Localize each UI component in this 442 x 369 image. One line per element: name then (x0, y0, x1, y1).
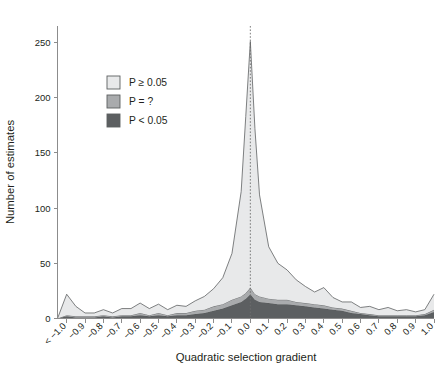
legend-swatch-dark (107, 114, 120, 127)
x-tick-label: 0.3 (291, 321, 307, 337)
x-tick-label: 0.5 (327, 321, 343, 337)
x-tick-label: < −1.0 (42, 321, 68, 347)
y-tick-label: 200 (35, 92, 51, 103)
x-tick-label: 0.2 (272, 321, 288, 337)
x-tick-label: 0.0 (236, 321, 252, 337)
y-tick-label: 50 (40, 258, 51, 269)
x-tick-label: −0.8 (85, 321, 105, 341)
y-axis-title: Number of estimates (4, 120, 16, 225)
x-tick-label: 0.8 (382, 321, 398, 337)
legend-swatch-medium (107, 95, 120, 108)
x-tick-label: −0.3 (177, 321, 197, 341)
y-tick-label: 250 (35, 37, 51, 48)
x-tick-label: 1.0 (419, 321, 435, 337)
y-tick-label: 0 (45, 313, 50, 324)
y-tick-group: 050100150200250 (35, 37, 58, 324)
legend: P ≥ 0.05P = ?P < 0.05 (107, 76, 168, 127)
x-tick-label: −0.5 (140, 321, 160, 341)
x-tick-label: −0.9 (66, 321, 86, 341)
legend-swatch-light (107, 76, 120, 89)
histogram-chart: 050100150200250 < −1.0−0.9−0.8−0.7−0.6−0… (0, 0, 442, 369)
x-tick-label: 0.9 (401, 321, 417, 337)
y-tick-label: 150 (35, 147, 51, 158)
x-tick-label: −0.1 (213, 321, 233, 341)
x-axis-title: Quadratic selection gradient (176, 351, 318, 363)
x-tick-label: −0.2 (195, 321, 215, 341)
x-tick-label: 0.4 (309, 321, 325, 337)
figure-container: 050100150200250 < −1.0−0.9−0.8−0.7−0.6−0… (0, 0, 442, 369)
legend-label: P < 0.05 (129, 115, 168, 126)
legend-label: P = ? (129, 96, 153, 107)
x-tick-label: −0.4 (158, 321, 178, 341)
y-tick-label: 100 (35, 203, 51, 214)
x-tick-label: −0.6 (122, 321, 142, 341)
legend-label: P ≥ 0.05 (129, 77, 167, 88)
x-tick-label: 0.6 (346, 321, 362, 337)
x-tick-label: 0.7 (364, 321, 380, 337)
x-tick-label: 0.1 (254, 321, 270, 337)
x-tick-group: < −1.0−0.9−0.8−0.7−0.6−0.5−0.4−0.3−0.2−0… (42, 319, 435, 347)
x-tick-label: −0.7 (103, 321, 123, 341)
